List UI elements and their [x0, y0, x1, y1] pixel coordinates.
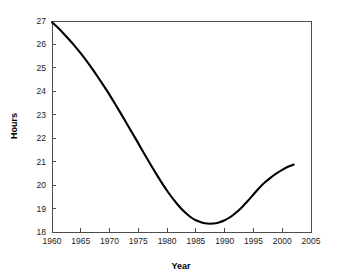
x-tick-label: 2000 — [273, 236, 292, 246]
x-tick-label: 1965 — [71, 236, 90, 246]
y-tick-label: 26 — [37, 39, 47, 49]
y-axis-title: Hours — [9, 113, 19, 139]
x-tick-label: 2005 — [302, 236, 321, 246]
y-tick-label: 19 — [37, 204, 47, 214]
y-tick-label: 25 — [37, 63, 47, 73]
x-tick-label: 1985 — [186, 236, 205, 246]
y-tick-label: 20 — [37, 180, 47, 190]
y-tick-label: 18 — [37, 227, 47, 237]
x-tick-label: 1960 — [43, 236, 62, 246]
chart-figure: 1960196519701975198019851990199520002005… — [0, 0, 338, 279]
x-axis-title: Year — [171, 261, 191, 271]
y-tick-label: 21 — [37, 157, 47, 167]
x-tick-label: 1980 — [158, 236, 177, 246]
y-tick-label: 22 — [37, 133, 47, 143]
y-tick-label: 24 — [37, 86, 47, 96]
x-tick-label: 1990 — [215, 236, 234, 246]
y-tick-label: 27 — [37, 16, 47, 26]
x-tick-label: 1970 — [100, 236, 119, 246]
line-chart: 1960196519701975198019851990199520002005… — [0, 0, 338, 279]
y-tick-label: 23 — [37, 110, 47, 120]
x-tick-label: 1995 — [244, 236, 263, 246]
x-tick-label: 1975 — [129, 236, 148, 246]
